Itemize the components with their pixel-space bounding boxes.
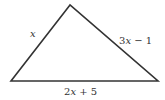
- triangle-diagram: x 3x − 1 2x + 5: [0, 0, 165, 100]
- side-label-left: x: [30, 28, 36, 39]
- side-label-right: 3x − 1: [119, 35, 152, 46]
- side-label-bottom: 2x + 5: [64, 86, 97, 97]
